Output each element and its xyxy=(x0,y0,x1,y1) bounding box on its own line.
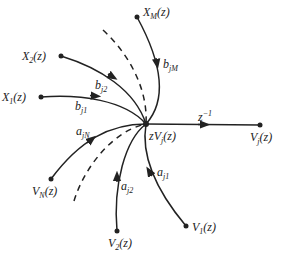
gain-x1: bj1 xyxy=(75,100,87,115)
label-x2: X2(z) xyxy=(22,50,46,65)
label-v2: V2(z) xyxy=(108,237,132,252)
gain-v1: aj1 xyxy=(157,166,169,181)
node-v2 xyxy=(115,229,120,234)
node-v1 xyxy=(184,224,189,229)
gain-output: z−1 xyxy=(198,110,212,123)
signal-flow-graph: X1(z) X2(z) XM(z) VN(z) V2(z) V1(z) zVj(… xyxy=(0,0,286,255)
label-suffix: (z) xyxy=(45,184,58,198)
label-vj: Vj(z) xyxy=(250,131,272,146)
edge-vn xyxy=(51,124,146,179)
node-vn xyxy=(49,177,54,182)
edge-x1 xyxy=(41,96,146,124)
label-hub: zVj(z) xyxy=(149,130,176,145)
label-suffix: (z) xyxy=(163,129,176,143)
gain-sub: j2 xyxy=(127,186,133,195)
edge-xm xyxy=(137,17,159,124)
node-hub xyxy=(143,121,149,127)
label-sub: M xyxy=(150,12,157,21)
node-vj xyxy=(258,123,263,128)
gain-sub: j1 xyxy=(81,106,87,115)
node-xm xyxy=(135,15,140,20)
gain-sub: j2 xyxy=(101,85,107,94)
edge-v2 xyxy=(116,124,146,231)
gain-xm: bjM xyxy=(163,58,178,73)
label-v1: V1(z) xyxy=(192,221,216,236)
gain-sub: jM xyxy=(169,64,178,73)
label-suffix: (z) xyxy=(157,5,170,19)
label-suffix: (z) xyxy=(260,130,273,144)
node-x1 xyxy=(39,95,44,100)
label-suffix: (z) xyxy=(203,220,216,234)
gain-sub: j1 xyxy=(163,172,169,181)
gain-v2: aj2 xyxy=(121,180,133,195)
graph-edges xyxy=(0,0,286,255)
label-xm: XM(z) xyxy=(143,6,170,21)
gain-vn: ajN xyxy=(76,125,90,140)
label-suffix: (z) xyxy=(119,236,132,250)
gain-x2: bj2 xyxy=(95,79,107,94)
gain-sub: jN xyxy=(82,131,90,140)
gain-exp: −1 xyxy=(203,109,212,118)
label-suffix: (z) xyxy=(33,49,46,63)
label-suffix: (z) xyxy=(13,90,26,104)
label-x1: X1(z) xyxy=(2,91,26,106)
label-base: zV xyxy=(149,129,161,143)
node-x2 xyxy=(59,54,64,59)
label-vn: VN(z) xyxy=(32,185,57,200)
